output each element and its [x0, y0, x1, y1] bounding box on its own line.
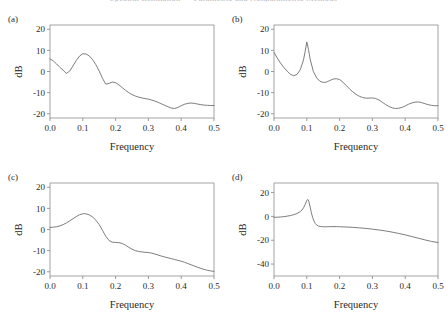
y-axis-title-c: dB [13, 223, 24, 235]
series-line-d [274, 199, 438, 242]
y-tick-label: -10 [33, 246, 45, 256]
series-line-b [274, 42, 438, 109]
x-tick-label: 0.3 [367, 281, 379, 291]
y-tick-label: 20 [260, 188, 270, 198]
x-tick-label: 0.1 [301, 281, 312, 291]
y-tick-label: -20 [33, 109, 45, 119]
x-tick-label: 0.0 [268, 123, 280, 133]
y-tick-label: -20 [257, 235, 269, 245]
x-tick-label: 0.1 [77, 281, 88, 291]
figure-page: Spectral Estimation — Parametric and Non… [0, 0, 447, 325]
panel-tag-c: (c) [8, 172, 18, 182]
chart-panel-c: (c)20100-10-200.00.10.20.30.40.5Frequenc… [0, 166, 223, 322]
x-tick-label: 0.1 [77, 123, 88, 133]
x-tick-label: 0.3 [143, 281, 155, 291]
y-tick-label: 10 [260, 46, 270, 56]
y-tick-label: 0 [41, 67, 46, 77]
chart-panel-d: (d)200-20-400.00.10.20.30.40.5Frequencyd… [224, 166, 447, 322]
plot-frame-c [50, 183, 214, 276]
panel-tag-d: (d) [232, 172, 243, 182]
y-tick-label: -40 [257, 259, 269, 269]
x-tick-label: 0.4 [400, 281, 412, 291]
y-tick-label: 0 [41, 225, 46, 235]
x-axis-title-d: Frequency [334, 299, 379, 310]
x-tick-label: 0.0 [44, 281, 56, 291]
y-tick-label: 20 [36, 24, 46, 34]
x-axis-title-c: Frequency [110, 299, 155, 310]
x-tick-label: 0.5 [432, 281, 444, 291]
x-tick-label: 0.1 [301, 123, 312, 133]
x-axis-title-b: Frequency [334, 141, 379, 152]
y-tick-label: -20 [33, 267, 45, 277]
x-tick-label: 0.2 [334, 123, 345, 133]
y-tick-label: 20 [36, 182, 46, 192]
x-tick-label: 0.4 [176, 281, 188, 291]
panel-tag-a: (a) [8, 14, 18, 24]
x-tick-label: 0.5 [432, 123, 444, 133]
y-tick-label: -10 [33, 88, 45, 98]
x-tick-label: 0.2 [334, 281, 345, 291]
chart-svg-d: (d)200-20-400.00.10.20.30.40.5Frequencyd… [224, 166, 447, 322]
x-axis-title-a: Frequency [110, 141, 155, 152]
y-axis-title-a: dB [13, 65, 24, 77]
running-header: Spectral Estimation — Parametric and Non… [0, 0, 447, 2]
y-tick-label: 20 [260, 24, 270, 34]
y-axis-title-b: dB [237, 65, 248, 77]
x-tick-label: 0.0 [268, 281, 280, 291]
series-line-c [50, 214, 214, 272]
y-tick-label: 0 [265, 67, 270, 77]
y-tick-label: -10 [257, 88, 269, 98]
chart-svg-c: (c)20100-10-200.00.10.20.30.40.5Frequenc… [0, 166, 223, 322]
y-tick-label: 0 [265, 212, 270, 222]
series-line-a [50, 54, 214, 109]
chart-svg-a: (a)20100-10-200.00.10.20.30.40.5Frequenc… [0, 8, 223, 164]
chart-panel-a: (a)20100-10-200.00.10.20.30.40.5Frequenc… [0, 8, 223, 164]
y-tick-label: 10 [36, 204, 46, 214]
x-tick-label: 0.2 [110, 123, 121, 133]
x-tick-label: 0.0 [44, 123, 56, 133]
x-tick-label: 0.2 [110, 281, 121, 291]
y-tick-label: -20 [257, 109, 269, 119]
x-tick-label: 0.4 [400, 123, 412, 133]
panel-tag-b: (b) [232, 14, 243, 24]
y-tick-label: 10 [36, 46, 46, 56]
plot-frame-a [50, 25, 214, 118]
x-tick-label: 0.5 [208, 123, 220, 133]
y-axis-title-d: dB [237, 223, 248, 235]
chart-svg-b: (b)20100-10-200.00.10.20.30.40.5Frequenc… [224, 8, 447, 164]
x-tick-label: 0.4 [176, 123, 188, 133]
plot-frame-d [274, 183, 438, 276]
x-tick-label: 0.3 [143, 123, 155, 133]
x-tick-label: 0.3 [367, 123, 379, 133]
chart-panel-b: (b)20100-10-200.00.10.20.30.40.5Frequenc… [224, 8, 447, 164]
x-tick-label: 0.5 [208, 281, 220, 291]
